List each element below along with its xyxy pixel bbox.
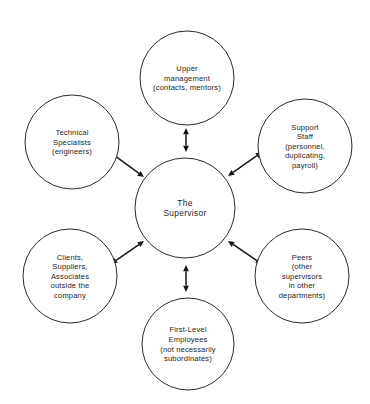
node-label-line: supervisors: [282, 272, 323, 281]
connector-supervisor-support-staff: [228, 152, 262, 176]
node-label-line: Associates: [51, 272, 89, 281]
node-technical-specialists[interactable]: TechnicalSpecialists(engineers): [25, 95, 119, 189]
connector-shaft: [116, 157, 139, 174]
node-label-line: management: [164, 74, 211, 83]
arrowhead-icon: [228, 170, 235, 176]
arrowhead-icon: [183, 265, 189, 271]
node-label-technical-specialists: TechnicalSpecialists(engineers): [52, 128, 92, 156]
arrowhead-icon: [228, 241, 235, 247]
node-label-line: (personnel,: [285, 142, 325, 151]
node-label-line: Staff: [297, 132, 314, 141]
arrowhead-icon: [137, 241, 144, 247]
node-label-line: Specialists: [53, 138, 91, 147]
connector-supervisor-peers: [228, 241, 262, 264]
node-label-line: departments): [279, 291, 326, 300]
node-label-line: company: [54, 291, 86, 300]
arrowhead-icon: [183, 128, 189, 134]
connector-shaft: [116, 245, 139, 261]
node-label-line: Supervisor: [163, 208, 206, 218]
connector-shaft: [233, 244, 257, 260]
connector-supervisor-clients-suppliers-associates: [111, 241, 144, 264]
node-label-line: The: [177, 198, 192, 208]
arrowhead-icon: [183, 286, 189, 292]
node-label-line: (contacts, mentors): [153, 83, 221, 92]
node-label-line: Upper: [176, 64, 198, 73]
node-label-line: Technical: [55, 128, 88, 137]
supervisor-network-diagram: Uppermanagement(contacts, mentors)Suppor…: [0, 0, 370, 404]
diagram-canvas: Uppermanagement(contacts, mentors)Suppor…: [0, 0, 370, 404]
node-support-staff[interactable]: SupportStaff(personnel,duplicating,payro…: [258, 99, 352, 193]
node-peers[interactable]: Peers(othersupervisorsin otherdepartment…: [255, 229, 349, 323]
connector-supervisor-upper-management: [183, 128, 189, 152]
node-the-supervisor[interactable]: TheSupervisor: [135, 158, 235, 258]
node-label-line: duplicating,: [285, 151, 325, 160]
node-label-line: Employees: [169, 335, 208, 344]
nodes-layer: Uppermanagement(contacts, mentors)Suppor…: [23, 31, 352, 390]
node-label-line: (not necessarily: [160, 345, 216, 354]
node-label-line: (other: [292, 262, 313, 271]
arrowhead-icon: [137, 171, 144, 177]
node-label-line: subordinates): [164, 354, 212, 363]
connector-shaft: [233, 156, 257, 173]
node-label-line: outside the: [51, 281, 90, 290]
node-label-line: Suppliers,: [52, 262, 87, 271]
node-label-line: Peers: [292, 253, 313, 262]
node-label-line: payroll): [292, 161, 318, 170]
node-label-line: Support: [291, 123, 319, 132]
arrowhead-icon: [183, 146, 189, 152]
node-first-level-employees[interactable]: First-LevelEmployees(not necessarilysubo…: [142, 298, 234, 390]
node-label-line: Clients,: [57, 253, 84, 262]
node-upper-management[interactable]: Uppermanagement(contacts, mentors): [140, 31, 234, 125]
node-label-line: in other: [289, 281, 316, 290]
connector-supervisor-first-level-employees: [183, 265, 189, 292]
node-clients-suppliers-associates[interactable]: Clients,Suppliers,Associatesoutside thec…: [23, 229, 117, 323]
node-label-line: First-Level: [169, 325, 206, 334]
node-label-line: (engineers): [52, 147, 92, 156]
